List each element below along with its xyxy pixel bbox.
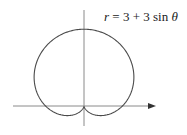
equation-label: r = 3 + 3 sin θ [104, 9, 178, 24]
polar-plot: r = 3 + 3 sin θ [0, 0, 187, 135]
x-axis-arrowhead [148, 103, 156, 109]
